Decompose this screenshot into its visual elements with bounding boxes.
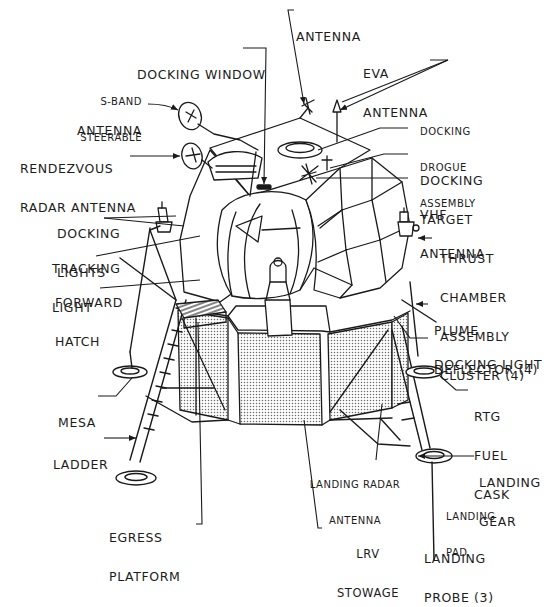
label-docking-light: DOCKING LIGHT — [434, 332, 542, 384]
label-lrv-stowage: LRV STOWAGE — [330, 522, 406, 607]
label-docking-window: DOCKING WINDOW — [137, 42, 266, 94]
label-landing-probe: LANDING PROBE (3) — [424, 526, 494, 607]
label-antenna: ANTENNA — [296, 4, 361, 56]
label-ladder: LADDER — [53, 432, 108, 484]
label-eva-antenna: EVA ANTENNA — [363, 41, 428, 132]
label-forward-hatch: FORWARD HATCH — [55, 270, 123, 361]
label-egress-platform: EGRESS PLATFORM — [109, 505, 180, 596]
